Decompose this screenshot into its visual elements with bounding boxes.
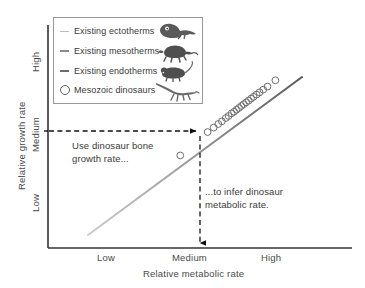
legend-item-endotherms: Existing endotherms bbox=[60, 61, 157, 81]
legend-swatch-line-endotherms bbox=[60, 70, 69, 72]
legend-label-endotherms: Existing endotherms bbox=[74, 66, 157, 76]
legend-animal-icons bbox=[154, 19, 200, 103]
legend-label-mesotherms: Existing mesotherms bbox=[74, 46, 159, 56]
y-tick-label-high: High bbox=[30, 52, 41, 72]
dinosaur-data-point bbox=[272, 77, 279, 84]
y-tick-label-low: Low bbox=[30, 194, 41, 212]
legend-item-mesotherms: Existing mesotherms bbox=[60, 41, 159, 61]
dinosaur-icon bbox=[156, 83, 199, 101]
legend-box: Existing ectotherms Existing mesotherms … bbox=[53, 17, 203, 104]
y-axis-title: Relative growth rate bbox=[16, 102, 27, 190]
x-tick-label-low: Low bbox=[97, 252, 115, 263]
x-tick-label-high: High bbox=[261, 252, 281, 263]
metabolic-rate-annotation: ...to infer dinosaur metabolic rate. bbox=[205, 186, 283, 211]
legend-swatch-line-ectotherms bbox=[60, 31, 69, 32]
dinosaur-data-point bbox=[210, 124, 217, 131]
lizard-icon bbox=[160, 24, 196, 39]
growth-rate-annotation: Use dinosaur bone growth rate... bbox=[72, 140, 153, 165]
dinosaur-metabolism-chart: Low Medium High Relative metabolic rate … bbox=[0, 0, 365, 288]
legend-label-ectotherms: Existing ectotherms bbox=[74, 26, 154, 36]
y-tick-label-medium: Medium bbox=[30, 117, 41, 152]
x-axis-title: Relative metabolic rate bbox=[143, 268, 244, 279]
legend-item-ectotherms: Existing ectotherms bbox=[60, 21, 154, 41]
x-tick-label-medium: Medium bbox=[172, 252, 207, 263]
legend-swatch-circle-dinosaurs bbox=[60, 85, 70, 95]
legend-label-dinosaurs: Mesozoic dinosaurs bbox=[74, 85, 155, 95]
legend-item-dinosaurs: Mesozoic dinosaurs bbox=[60, 80, 155, 100]
legend-swatch-line-mesotherms bbox=[60, 50, 69, 52]
mouse-icon bbox=[161, 61, 193, 81]
dinosaur-data-point bbox=[177, 152, 184, 159]
turtle-icon bbox=[158, 46, 198, 63]
dinosaur-data-point bbox=[204, 129, 211, 136]
